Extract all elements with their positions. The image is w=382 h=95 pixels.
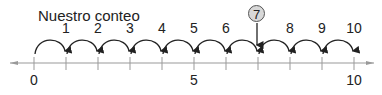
left-arrow-icon (10, 61, 18, 65)
jump-label: 8 (286, 20, 294, 36)
axis-label: 0 (30, 72, 38, 88)
jump-label: 2 (94, 20, 102, 36)
axis-label: 5 (190, 72, 198, 88)
jump-label: 3 (126, 20, 134, 36)
current-count-marker: 7 (248, 5, 265, 22)
jump-arrows (35, 40, 353, 54)
jump-label: 1 (62, 20, 70, 36)
jump-label: 6 (222, 20, 230, 36)
jump-label: 5 (190, 20, 198, 36)
jump-label: 9 (318, 20, 326, 36)
jump-label: 10 (346, 20, 362, 36)
jump-label: 4 (158, 20, 166, 36)
right-arrow-icon (366, 61, 374, 65)
axis-label: 10 (346, 72, 362, 88)
